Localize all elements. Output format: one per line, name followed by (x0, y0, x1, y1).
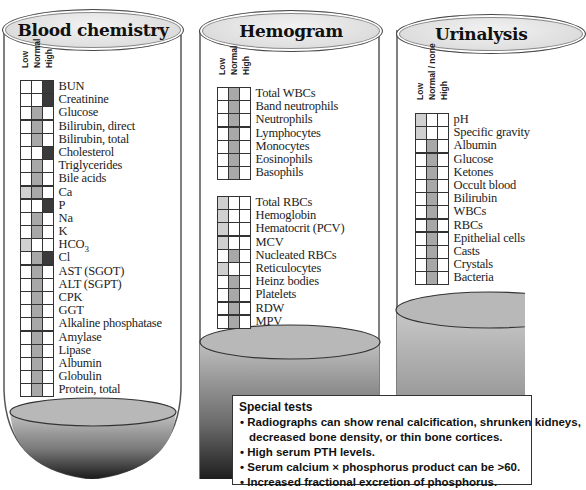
grid-cell-low (217, 302, 229, 316)
grid-row: Lipase (20, 344, 162, 357)
grid-cell-normal (228, 262, 240, 276)
grid-cell-high (239, 127, 251, 141)
hemogram-rbc-grid: Total RBCsHemoglobinHematocrit (PCV)MCVN… (217, 196, 344, 328)
grid-cell-normal (228, 315, 240, 329)
grid-cell-high (42, 172, 54, 186)
grid-row: Bacteria (415, 271, 530, 284)
special-tests-title: Special tests (239, 400, 525, 414)
grid-cell-low (20, 212, 32, 226)
grid-cell-normal (426, 219, 438, 233)
urinalysis-column-headers: Low Normal / none High (415, 48, 451, 110)
grid-cell-high (239, 315, 251, 329)
grid-cell-normal (426, 113, 438, 127)
grid-cell-normal (31, 186, 43, 200)
special-test-item: • High serum PTH levels. (239, 445, 525, 460)
row-label: RBCs (454, 219, 483, 232)
hemogram-wbc-grid: Total WBCsBand neutrophilsNeutrophilsLym… (217, 87, 338, 179)
grid-cell-high (42, 120, 54, 134)
grid-cell-normal (426, 271, 438, 285)
grid-cell-low (415, 232, 427, 246)
grid-cell-high (239, 196, 251, 210)
grid-cell-normal (228, 288, 240, 302)
grid-cell-low (20, 93, 32, 107)
grid-cell-low (415, 153, 427, 167)
grid-cell-low (217, 113, 229, 127)
column-header-low: Low (217, 58, 227, 75)
grid-cell-normal (31, 304, 43, 318)
row-label: Alkaline phosphatase (59, 317, 162, 330)
column-header-low: Low (415, 83, 425, 100)
row-label: WBCs (454, 205, 487, 218)
grid-cell-high (239, 113, 251, 127)
row-label: Monocytes (256, 140, 310, 153)
grid-row: Cl (20, 251, 162, 264)
row-label: Platelets (256, 288, 297, 301)
grid-cell-low (20, 370, 32, 384)
grid-cell-high (239, 87, 251, 101)
grid-cell-low (20, 199, 32, 213)
grid-row: Bilirubin, direct (20, 120, 162, 133)
hemogram-column-headers: Low Normal High (217, 41, 253, 85)
grid-cell-low (415, 258, 427, 272)
grid-cell-normal (426, 126, 438, 140)
row-label: Bilirubin, total (59, 133, 129, 146)
grid-cell-normal (228, 236, 240, 250)
grid-cell-high (239, 275, 251, 289)
row-label: Amylase (59, 331, 102, 344)
grid-cell-low (415, 113, 427, 127)
grid-cell-high (437, 219, 449, 233)
grid-cell-high (42, 238, 54, 252)
grid-row: RBCs (415, 219, 530, 232)
row-label: Protein, total (59, 383, 121, 396)
grid-cell-high (42, 106, 54, 120)
grid-cell-high (42, 146, 54, 160)
grid-cell-high (42, 291, 54, 305)
grid-cell-low (217, 262, 229, 276)
grid-cell-high (42, 251, 54, 265)
grid-cell-high (239, 249, 251, 263)
grid-cell-high (239, 140, 251, 154)
column-header-high: High (241, 56, 251, 75)
grid-cell-normal (31, 251, 43, 265)
grid-cell-high (437, 126, 449, 140)
grid-cell-normal (228, 222, 240, 236)
row-label: Bacteria (454, 271, 494, 284)
grid-cell-high (239, 100, 251, 114)
grid-cell-low (217, 196, 229, 210)
grid-cell-low (20, 251, 32, 265)
grid-row: Glucose (415, 153, 530, 166)
grid-row: Na (20, 212, 162, 225)
row-label: Ketones (454, 166, 494, 179)
grid-cell-high (239, 288, 251, 302)
grid-cell-high (239, 236, 251, 250)
grid-cell-normal (31, 93, 43, 107)
grid-cell-low (415, 179, 427, 193)
grid-row: AST (SGOT) (20, 265, 162, 278)
row-label: P (59, 199, 66, 212)
grid-cell-normal (31, 331, 43, 345)
column-header-high: High (44, 49, 54, 68)
grid-cell-high (42, 331, 54, 345)
grid-cell-normal (31, 317, 43, 331)
grid-cell-low (20, 291, 32, 305)
grid-cell-low (217, 166, 229, 180)
grid-cell-low (415, 205, 427, 219)
grid-cell-normal (228, 196, 240, 210)
grid-row: Albumin (415, 139, 530, 152)
grid-row: Lymphocytes (217, 127, 338, 140)
grid-cell-normal (31, 80, 43, 94)
special-test-item: • Serum calcium × phosphorus product can… (239, 460, 525, 475)
grid-cell-normal (426, 232, 438, 246)
grid-cell-high (42, 133, 54, 147)
grid-cell-low (415, 139, 427, 153)
grid-cell-low (415, 192, 427, 206)
grid-cell-high (42, 212, 54, 226)
grid-cell-low (415, 166, 427, 180)
grid-row: Ca (20, 186, 162, 199)
grid-cell-high (42, 304, 54, 318)
column-header-normal: Normal (229, 46, 239, 75)
grid-row: WBCs (415, 205, 530, 218)
grid-row: K (20, 225, 162, 238)
grid-cell-normal (426, 192, 438, 206)
grid-cell-normal (426, 139, 438, 153)
